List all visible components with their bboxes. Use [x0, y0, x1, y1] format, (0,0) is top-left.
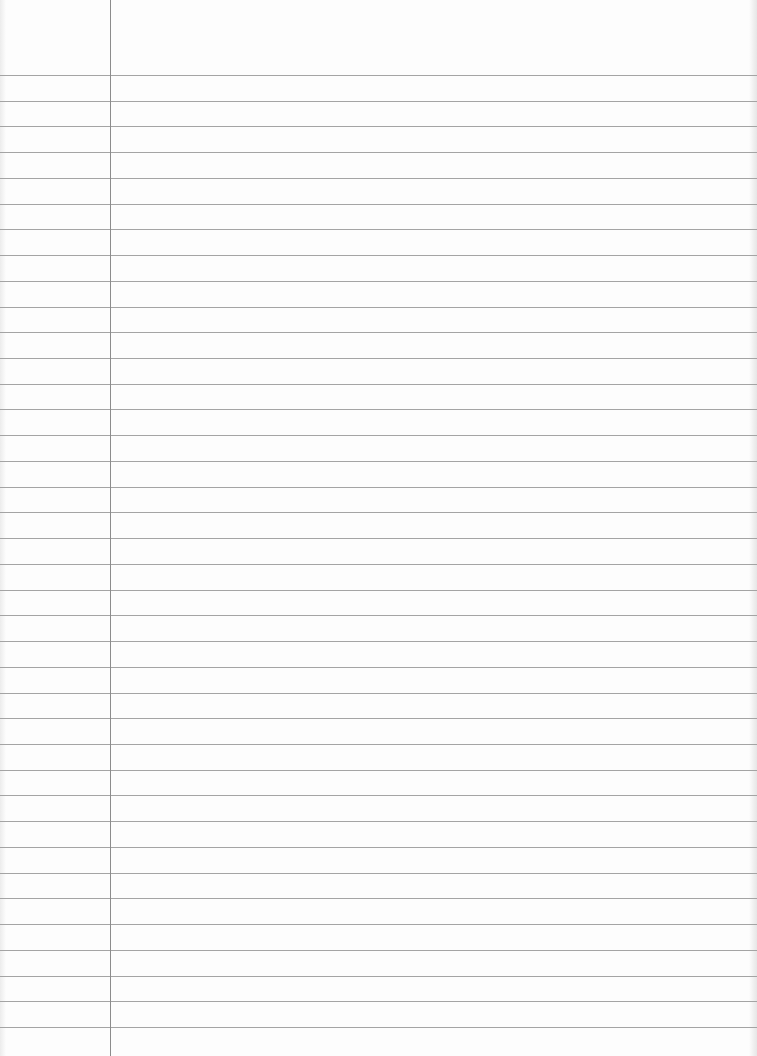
ruled-line — [0, 641, 757, 642]
margin-line — [110, 0, 111, 1056]
ruled-line — [0, 564, 757, 565]
ruled-line — [0, 590, 757, 591]
ruled-line — [0, 307, 757, 308]
ruled-line — [0, 384, 757, 385]
ruled-line — [0, 281, 757, 282]
ruled-line — [0, 152, 757, 153]
ruled-line — [0, 873, 757, 874]
ruled-line — [0, 255, 757, 256]
ruled-line — [0, 101, 757, 102]
ruled-line — [0, 75, 757, 76]
ruled-line — [0, 924, 757, 925]
ruled-line — [0, 487, 757, 488]
ruled-line — [0, 718, 757, 719]
ruled-line — [0, 976, 757, 977]
ruled-line — [0, 229, 757, 230]
lined-paper-page — [0, 0, 757, 1056]
ruled-line — [0, 667, 757, 668]
ruled-line — [0, 847, 757, 848]
ruled-line — [0, 898, 757, 899]
ruled-line — [0, 512, 757, 513]
ruled-line — [0, 770, 757, 771]
ruled-line — [0, 409, 757, 410]
ruled-line — [0, 538, 757, 539]
ruled-line — [0, 1027, 757, 1028]
ruled-line — [0, 204, 757, 205]
ruled-line — [0, 126, 757, 127]
ruled-line — [0, 693, 757, 694]
ruled-line — [0, 435, 757, 436]
ruled-line — [0, 461, 757, 462]
ruled-line — [0, 615, 757, 616]
ruled-line — [0, 821, 757, 822]
ruled-line — [0, 358, 757, 359]
ruled-line — [0, 332, 757, 333]
ruled-line — [0, 744, 757, 745]
ruled-line — [0, 950, 757, 951]
ruled-line — [0, 1001, 757, 1002]
ruled-line — [0, 178, 757, 179]
ruled-line — [0, 795, 757, 796]
